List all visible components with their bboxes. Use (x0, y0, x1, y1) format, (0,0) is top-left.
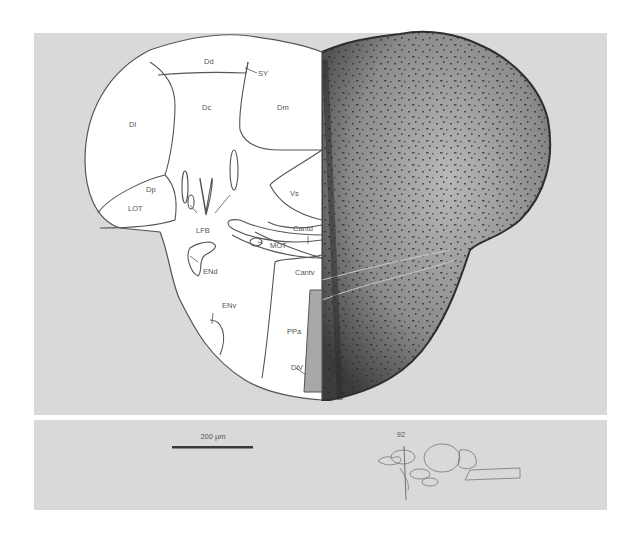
label-Dm: Dm (277, 103, 289, 112)
label-MOT: MOT (270, 241, 287, 250)
section-drawing: Dd SY Dc Dm Dl Dp LOT LFB Vs Cantd MOT E… (0, 0, 639, 534)
label-LFB: LFB (196, 226, 210, 235)
nissl-section-photo (322, 32, 550, 400)
label-SY: SY (258, 69, 268, 78)
label-Dd: Dd (204, 57, 214, 66)
label-ENv: ENv (222, 301, 236, 310)
label-DiV: DiV (291, 363, 303, 372)
scale-bar-line (172, 446, 253, 449)
scale-bar-label: 200 µm (200, 432, 225, 441)
label-ENd: ENd (203, 267, 218, 276)
label-Dl: Dl (129, 120, 136, 129)
schematic-outline (85, 35, 322, 400)
brain-inset: 92 (378, 430, 520, 500)
label-Cantd: Cantd (293, 224, 313, 233)
label-PPa: PPa (287, 327, 302, 336)
section-number: 92 (397, 430, 405, 439)
label-LOT: LOT (128, 204, 143, 213)
label-Dc: Dc (202, 103, 211, 112)
label-Dp: Dp (146, 185, 156, 194)
brain-atlas-figure: Dd SY Dc Dm Dl Dp LOT LFB Vs Cantd MOT E… (0, 0, 639, 534)
scale-bar: 200 µm (172, 432, 253, 449)
label-Vs: Vs (290, 189, 299, 198)
label-Cantv: Cantv (295, 268, 315, 277)
